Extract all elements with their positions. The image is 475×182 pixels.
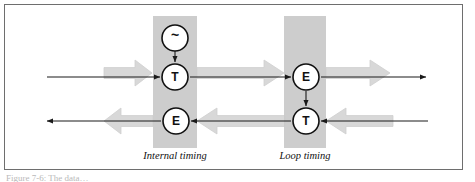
node-label-loop-receive: E	[302, 70, 310, 84]
node-internal-receive: E	[163, 108, 189, 134]
node-loop-transmit: T	[293, 108, 319, 134]
node-oscillator: ~	[162, 25, 188, 51]
node-label-internal-receive: E	[172, 114, 180, 128]
timing-diagram: ~TEET Internal timingLoop timing	[0, 0, 475, 182]
node-label-oscillator: ~	[171, 27, 179, 43]
group-caption-layer: Internal timingLoop timing	[142, 150, 330, 161]
fat-arrow-layer	[104, 60, 393, 134]
fat-arrow-left-in	[104, 60, 152, 86]
node-internal-transmit: T	[162, 64, 188, 90]
figure-caption: Figure 7-6: The data…	[6, 173, 446, 182]
figure-root: ~TEET Internal timingLoop timing Figure …	[0, 0, 475, 182]
node-label-internal-transmit: T	[171, 70, 179, 84]
group-caption-internal-timing: Internal timing	[142, 150, 206, 161]
node-label-loop-transmit: T	[302, 114, 310, 128]
fat-arrow-middle-out	[197, 60, 284, 86]
node-loop-receive: E	[293, 64, 319, 90]
fat-arrow-right-out	[326, 60, 390, 86]
group-caption-loop-timing: Loop timing	[278, 150, 330, 161]
